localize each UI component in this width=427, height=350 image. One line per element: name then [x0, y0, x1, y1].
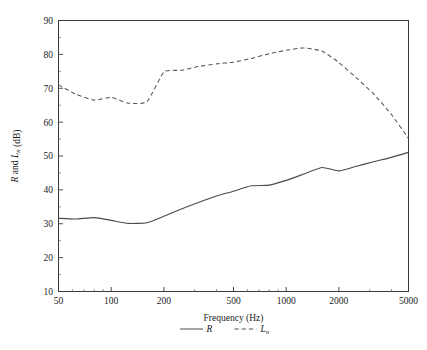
- x-axis-title-text: Frequency (Hz): [204, 313, 264, 324]
- y-tick-label: 90: [44, 16, 54, 26]
- legend-label-R: R: [206, 324, 213, 334]
- chart-figure: 50100200500100020005000 1020304050607080…: [0, 0, 427, 350]
- y-tick-label: 40: [44, 185, 54, 195]
- x-tick-label: 5000: [399, 296, 418, 306]
- x-tick-label: 2000: [329, 296, 348, 306]
- x-axis-title: Frequency (Hz): [204, 313, 264, 324]
- frequency-response-chart: 50100200500100020005000 1020304050607080…: [0, 0, 427, 350]
- x-tick-label: 500: [226, 296, 241, 306]
- x-tick-label: 50: [54, 296, 64, 306]
- y-tick-label: 30: [44, 219, 54, 229]
- y-tick-label: 50: [44, 151, 54, 161]
- y-axis-tick-labels: 102030405060708090: [44, 16, 54, 297]
- x-tick-label: 200: [157, 296, 172, 306]
- y-tick-label: 60: [44, 118, 54, 128]
- y-tick-label: 10: [44, 287, 54, 297]
- x-tick-label: 1000: [277, 296, 296, 306]
- y-tick-label: 20: [44, 253, 54, 263]
- y-tick-label: 80: [44, 50, 54, 60]
- x-tick-label: 100: [104, 296, 119, 306]
- y-tick-label: 70: [44, 84, 54, 94]
- chart-background: [0, 0, 427, 350]
